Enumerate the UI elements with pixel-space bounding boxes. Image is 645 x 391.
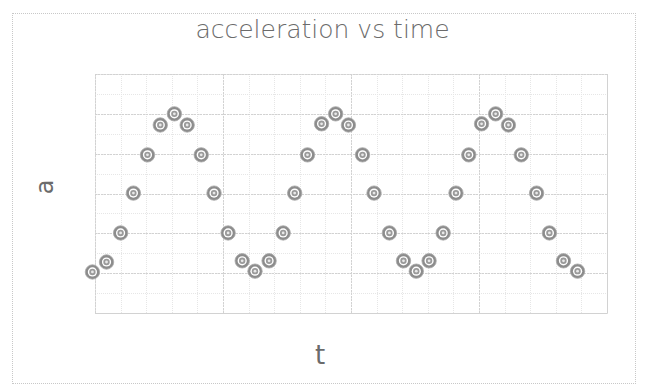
data-point-marker	[367, 186, 381, 200]
data-point-marker	[436, 226, 450, 240]
data-point-marker	[501, 118, 515, 132]
data-point-marker	[167, 107, 181, 121]
data-point-marker	[556, 254, 570, 268]
data-point-marker	[341, 118, 355, 132]
data-point-marker	[126, 186, 140, 200]
data-point-marker	[488, 107, 502, 121]
data-point-marker	[248, 264, 262, 278]
data-point-marker	[355, 148, 369, 162]
data-point-marker	[153, 118, 167, 132]
data-point-marker	[276, 226, 290, 240]
data-point-marker	[235, 254, 249, 268]
data-point-marker	[328, 107, 342, 121]
data-point-marker	[396, 254, 410, 268]
data-point-marker	[382, 226, 396, 240]
data-point-marker	[542, 226, 556, 240]
data-point-marker	[194, 148, 208, 162]
data-point-marker	[113, 226, 127, 240]
data-point-marker	[449, 186, 463, 200]
data-point-marker	[462, 148, 476, 162]
data-point-marker	[529, 186, 543, 200]
data-point-marker	[287, 186, 301, 200]
data-point-marker	[180, 118, 194, 132]
plot-area	[0, 0, 645, 391]
data-point-marker	[474, 117, 488, 131]
data-point-marker	[514, 148, 528, 162]
data-point-marker	[85, 265, 99, 279]
data-point-marker	[262, 254, 276, 268]
data-point-marker	[409, 264, 423, 278]
data-point-marker	[300, 148, 314, 162]
data-point-marker	[314, 117, 328, 131]
data-point-marker	[221, 226, 235, 240]
data-point-marker	[99, 255, 113, 269]
data-point-marker	[140, 148, 154, 162]
data-point-marker	[422, 254, 436, 268]
data-point-marker	[207, 186, 221, 200]
data-point-marker	[570, 264, 584, 278]
